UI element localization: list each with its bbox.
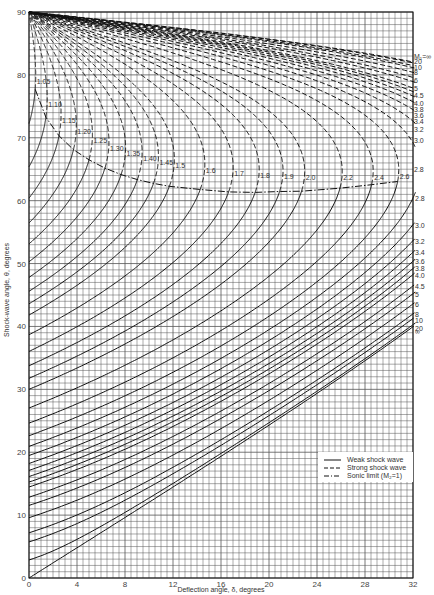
y-tick-label: 0 [22,574,27,583]
y-tick-label: 20 [17,448,26,457]
mach-label: 1.20 [77,128,91,135]
right-mach-label-strong: 6 [414,77,418,84]
mach-label: 1.10 [48,101,62,108]
x-tick-label: 24 [313,580,322,589]
weak-shock-curve [29,117,46,167]
y-axis-title: Shock-wave angle, θ, degrees [3,242,11,337]
right-mach-label-weak: 10 [415,317,423,324]
mach-label: 1.25 [93,137,107,144]
weak-shock-curve [29,190,200,335]
mach-label: 2.2 [343,174,353,181]
right-mach-label-strong: 2.8 [414,166,424,173]
right-mach-label-weak: 4.0 [415,272,425,279]
y-tick-label: 50 [17,260,26,269]
weak-shock-curve [29,186,169,315]
mach-label: 1.6 [206,167,216,174]
y-tick-label: 10 [17,511,26,520]
right-mach-label-weak: ∞ [415,328,420,335]
right-mach-label-weak: 3.4 [415,249,425,256]
right-mach-label-weak: 6 [415,301,419,308]
mach-label: 2.0 [306,174,316,181]
right-mach-label-weak: 5 [415,291,419,298]
legend-strong-label: Strong shock wave [347,464,406,472]
mach-label: 1.7 [234,170,244,177]
right-mach-label-strong: 8 [414,69,418,76]
legend: Weak shock wave Strong shock wave Sonic … [318,452,413,482]
y-tick-label: 30 [17,385,26,394]
weak-shock-curve [29,188,340,408]
right-mach-label-weak: 4.5 [415,283,425,290]
mach-label: 2.4 [374,174,384,181]
right-mach-label-strong: 3.2 [414,126,424,133]
y-tick-label: 90 [17,8,26,17]
mach-label: 1.05 [37,78,51,85]
right-mach-label-weak: 2.8 [415,195,425,202]
right-mach-label-strong: 3.4 [414,118,424,125]
y-tick-label: 80 [17,71,26,80]
x-tick-label: 28 [361,580,370,589]
mach-label: 1.5 [175,162,185,169]
mach-label: 1.9 [284,173,294,180]
x-tick-label: 8 [123,580,128,589]
strong-shock-curve [29,12,158,183]
y-tick-label: 60 [17,197,26,206]
legend-weak-label: Weak shock wave [347,456,403,463]
right-mach-label-weak: 3.2 [415,238,425,245]
weak-shock-curve [29,185,372,423]
mach-label: 1.30 [110,145,124,152]
right-mach-label-strong: 3.0 [414,137,424,144]
mach-label: 1.40 [143,155,157,162]
oblique-shock-chart: 0481216202428320102030405060708090 1.051… [0,0,434,595]
mach-label: 2.6 [400,173,410,180]
x-axis-title: Deflection angle, δ, degrees [177,586,265,594]
y-tick-label: 70 [17,134,26,143]
x-tick-label: 4 [75,580,80,589]
legend-sonic-label: Sonic limit (M₂=1) [347,472,402,480]
right-mach-label-weak: 3.6 [415,258,425,265]
strong-shock-curve [29,12,414,110]
mach-label: 1.15 [62,117,76,124]
mach-label: 1.35 [127,150,141,157]
right-mach-label-weak: 3.0 [415,222,425,229]
x-tick-label: 32 [409,580,418,589]
y-tick-label: 40 [17,322,26,331]
mach-label: 1.8 [260,172,270,179]
weak-shock-curve [29,136,59,198]
x-tick-label: 0 [27,580,32,589]
x-tick-label: 20 [265,580,274,589]
right-mach-label-strong: 4.5 [414,92,424,99]
mach-label: 1.45 [159,159,173,166]
